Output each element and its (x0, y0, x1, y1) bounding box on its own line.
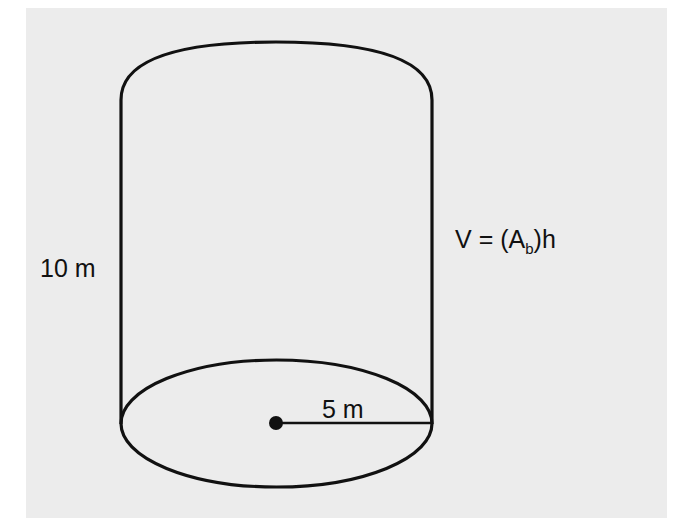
formula-factor: h (542, 225, 556, 253)
radius-label: 5 m (322, 397, 364, 422)
cylinder-outline (121, 42, 432, 424)
volume-formula: V = (Ab)h (455, 227, 556, 256)
formula-base: A (509, 225, 526, 253)
formula-subscript: b (525, 240, 533, 257)
formula-close: ) (534, 225, 542, 253)
height-label: 10 m (40, 256, 96, 281)
cylinder-figure (0, 0, 676, 532)
formula-lhs: V (455, 225, 472, 253)
formula-equals: = (479, 225, 494, 253)
center-dot (269, 416, 283, 430)
formula-open: ( (500, 225, 508, 253)
